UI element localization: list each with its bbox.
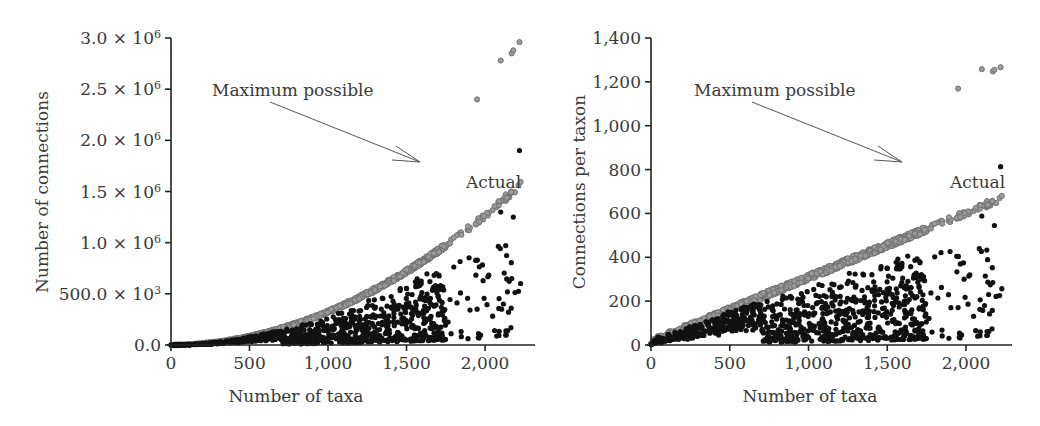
actual-point	[764, 325, 769, 330]
actual-point	[428, 335, 433, 340]
actual-point	[715, 323, 720, 328]
actual-point	[365, 303, 370, 308]
actual-point	[915, 336, 920, 341]
actual-point	[766, 304, 771, 309]
actual-point	[350, 314, 355, 319]
max-point	[999, 193, 1004, 198]
actual-point	[360, 322, 365, 327]
actual-point	[792, 339, 797, 344]
max-point	[482, 214, 487, 219]
actual-point	[831, 333, 836, 338]
actual-point	[877, 327, 882, 332]
x-tick-label: 2,000	[461, 353, 510, 373]
actual-point	[817, 294, 822, 299]
actual-point	[441, 337, 446, 342]
max-point	[779, 283, 784, 288]
actual-point	[946, 336, 951, 341]
max-point	[973, 205, 978, 210]
actual-point	[908, 264, 913, 269]
actual-point	[897, 321, 902, 326]
actual-point	[829, 301, 834, 306]
actual-point	[357, 314, 362, 319]
actual-point	[739, 306, 744, 311]
actual-point	[459, 329, 464, 334]
actual-point	[869, 335, 874, 340]
actual-point	[814, 330, 819, 335]
actual-point	[805, 289, 810, 294]
actual-point	[772, 313, 777, 318]
actual-point	[738, 327, 743, 332]
actual-point	[902, 333, 907, 338]
max-point	[872, 251, 877, 256]
actual-point	[388, 337, 393, 342]
actual-point	[318, 318, 323, 323]
max-point	[761, 291, 766, 296]
annotation-maximum-possible-left: Maximum possible	[212, 80, 374, 100]
actual-point	[465, 336, 470, 341]
actual-point	[885, 279, 890, 284]
x-tick-label: 500	[233, 353, 265, 373]
y-tick-label: 2.0 × 106	[80, 130, 161, 151]
actual-point	[967, 272, 972, 277]
actual-point	[330, 327, 335, 332]
max-point	[459, 232, 464, 237]
max-point	[475, 97, 480, 102]
actual-point	[512, 290, 517, 295]
actual-point	[853, 283, 858, 288]
actual-point	[404, 286, 409, 291]
actual-point	[438, 283, 443, 288]
actual-point	[778, 312, 783, 317]
actual-point	[271, 333, 276, 338]
annotation-arrow-right	[752, 102, 902, 162]
actual-point	[423, 295, 428, 300]
actual-point	[779, 302, 784, 307]
x-tick-label: 1,000	[304, 353, 353, 373]
actual-point	[923, 311, 928, 316]
actual-point	[863, 336, 868, 341]
actual-point	[689, 335, 694, 340]
actual-point	[509, 306, 514, 311]
actual-point	[365, 330, 370, 335]
actual-point	[405, 291, 410, 296]
actual-point	[928, 290, 933, 295]
actual-point	[398, 288, 403, 293]
actual-point	[805, 303, 810, 308]
actual-point	[993, 294, 998, 299]
actual-point	[887, 286, 892, 291]
actual-point	[395, 339, 400, 344]
actual-point	[496, 306, 501, 311]
max-point	[398, 274, 403, 279]
max-point	[806, 276, 811, 281]
actual-point	[707, 327, 712, 332]
actual-point	[454, 300, 459, 305]
actual-point	[761, 339, 766, 344]
actual-point	[978, 297, 983, 302]
actual-point	[389, 294, 394, 299]
actual-point	[411, 338, 416, 343]
actual-point	[837, 285, 842, 290]
actual-point	[992, 223, 997, 228]
actual-point	[511, 215, 516, 220]
actual-point	[990, 280, 995, 285]
actual-point	[416, 284, 421, 289]
actual-point	[780, 294, 785, 299]
actual-point	[763, 320, 768, 325]
actual-point	[738, 318, 743, 323]
max-point	[492, 204, 497, 209]
actual-point	[986, 329, 991, 334]
actual-point	[804, 336, 809, 341]
max-point	[511, 48, 516, 53]
max-point	[497, 199, 502, 204]
actual-point	[409, 311, 414, 316]
actual-point	[926, 316, 931, 321]
actual-point	[977, 307, 982, 312]
actual-point	[919, 277, 924, 282]
y-tick-label: 1,000	[592, 116, 641, 136]
actual-point	[492, 328, 497, 333]
actual-point	[827, 287, 832, 292]
max-point	[932, 221, 937, 226]
actual-point	[765, 335, 770, 340]
actual-point	[422, 328, 427, 333]
actual-point	[385, 304, 390, 309]
actual-point	[863, 310, 868, 315]
